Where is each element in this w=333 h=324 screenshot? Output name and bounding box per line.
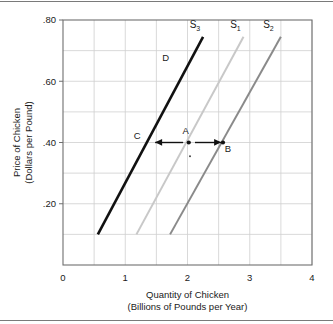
x-tick-label: 2 — [185, 272, 190, 283]
x-axis-title: Quantity of Chicken — [146, 289, 229, 300]
curve-label-subscript: 1 — [237, 25, 241, 32]
y-axis-title: Price of Chicken — [11, 108, 22, 177]
curve-label-subscript: 3 — [196, 25, 200, 32]
point-d-label: D — [162, 52, 169, 63]
point-c-label: C — [134, 130, 141, 141]
x-tick-label: 1 — [123, 272, 128, 283]
point-a-label: A — [183, 125, 190, 136]
y-axis-ticks: .20.40.60.80 — [43, 14, 63, 209]
x-tick-label: 0 — [60, 272, 65, 283]
curve-label-S2: S2 — [263, 19, 274, 32]
x-tick-label: 4 — [309, 272, 314, 283]
small-dot-below-a — [189, 155, 191, 157]
x-tick-label: 3 — [247, 272, 252, 283]
y-tick-label: .40 — [43, 137, 56, 148]
supply-curve-S1 — [136, 37, 243, 235]
x-axis-ticks: 01234 — [60, 272, 314, 283]
curve-label-S1: S1 — [230, 19, 241, 32]
y-tick-label: .60 — [43, 76, 56, 87]
point-a-dot — [187, 140, 191, 144]
y-tick-label: .20 — [43, 198, 56, 209]
curve-label-subscript: 2 — [270, 25, 274, 32]
x-axis-subtitle: (Billions of Pounds per Year) — [128, 301, 248, 312]
chart-figure: .20.40.60.8001234S3S1S2CABDQuantity of C… — [0, 0, 333, 324]
y-axis-subtitle: (Dollars per Pound) — [23, 101, 34, 183]
y-tick-label: .80 — [43, 14, 56, 25]
point-b-label: B — [225, 143, 231, 154]
curve-label-S3: S3 — [190, 19, 201, 32]
supply-curve-plot: .20.40.60.8001234S3S1S2CABDQuantity of C… — [0, 0, 333, 324]
